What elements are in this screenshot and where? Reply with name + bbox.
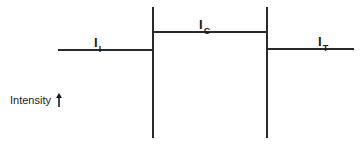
right-boundary-line [266, 7, 268, 138]
incident-intensity-line [58, 49, 153, 51]
transmitted-intensity-line [267, 48, 354, 50]
label-subscript: I [99, 44, 102, 54]
center-intensity-line [153, 31, 267, 33]
label-main: I [318, 34, 322, 49]
label-subscript: T [323, 43, 329, 53]
incident-intensity-label: II [94, 36, 101, 49]
left-boundary-line [152, 7, 154, 138]
axis-label-text: Intensity [10, 94, 51, 106]
center-intensity-label: IC [199, 18, 210, 31]
arrow-up-icon [55, 93, 63, 107]
transmitted-intensity-label: IT [318, 35, 328, 48]
label-subscript: C [204, 26, 211, 36]
intensity-axis-label: Intensity [10, 93, 63, 107]
label-main: I [94, 35, 98, 50]
label-main: I [199, 17, 203, 32]
